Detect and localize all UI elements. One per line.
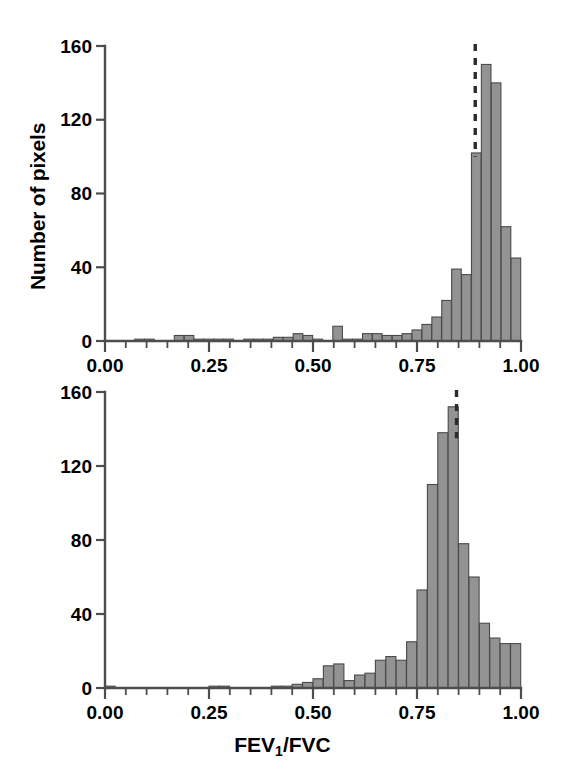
figure-histograms: Number of pixels 040801201600.000.250.50… [0,0,565,778]
panel-top-histogram: Number of pixels 040801201600.000.250.50… [0,0,565,380]
histogram-bar [417,590,427,688]
histogram-bar [501,227,511,341]
x-tick-label: 0.00 [87,702,124,723]
y-tick-label: 120 [60,456,92,477]
y-tick-label: 40 [71,257,92,278]
histogram-bar [375,660,385,688]
histogram-bar [511,258,521,341]
y-tick-label: 80 [71,183,92,204]
y-tick-label: 0 [81,678,92,699]
histogram-bar [407,642,417,688]
x-axis-label: FEV1/FVC [0,733,565,757]
histogram-bar [469,577,479,688]
histogram-bar [438,433,448,688]
x-axis-label-rest: /FVC [283,733,331,756]
top-histogram-plot: 040801201600.000.250.500.751.00 [0,0,565,380]
histogram-bar [386,657,396,688]
y-tick-label: 80 [71,530,92,551]
histogram-bar [422,324,432,341]
x-tick-label: 0.50 [295,702,332,723]
histogram-bar [333,326,343,341]
histogram-bar [432,317,442,341]
histogram-bar [491,83,501,341]
histogram-bar [355,675,365,688]
x-axis-label-subscript: 1 [275,743,283,759]
y-tick-label: 120 [60,109,92,130]
x-tick-label: 0.25 [191,702,228,723]
histogram-bar [427,485,437,689]
histogram-bar [462,275,472,341]
y-tick-label: 160 [60,36,92,57]
x-tick-label: 0.75 [399,702,436,723]
bar-group [135,64,521,341]
histogram-bar [412,330,422,341]
panel-bottom-histogram: Number of pixels 040801201600.000.250.50… [0,346,565,778]
x-tick-label: 1.00 [503,702,540,723]
histogram-bar [365,673,375,688]
histogram-bar [479,623,489,688]
histogram-bar [481,64,491,341]
y-tick-label: 40 [71,604,92,625]
histogram-bar [334,664,344,688]
y-tick-label: 160 [60,382,92,403]
bar-group [105,407,521,688]
histogram-bar [490,638,500,688]
histogram-bar [500,644,510,688]
histogram-bar [323,666,333,688]
x-axis-label-main: FEV [234,733,275,756]
histogram-bar [511,644,521,688]
histogram-bar [396,660,406,688]
histogram-bar [313,679,323,688]
histogram-bar [459,544,469,688]
histogram-bar [442,300,452,341]
histogram-bar [452,269,462,341]
histogram-bar [471,153,481,341]
histogram-bar [448,407,458,688]
bottom-histogram-plot: 040801201600.000.250.500.751.00 [0,346,565,778]
